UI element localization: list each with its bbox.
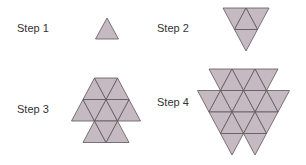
step-3-figure xyxy=(72,78,141,143)
step-4-figure xyxy=(198,69,290,155)
triangle-figures xyxy=(0,0,306,165)
step-2-figure xyxy=(223,8,269,51)
step-1-figure xyxy=(96,18,119,39)
